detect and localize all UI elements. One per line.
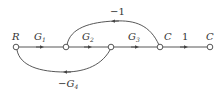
label-G1: G1 (34, 31, 46, 43)
node-n1 (63, 44, 69, 50)
label-G3: G3 (128, 31, 140, 43)
label-minus-G4: −G4 (58, 78, 78, 90)
node-C-output (207, 44, 213, 50)
label-minus-1: −1 (110, 6, 125, 17)
branch-minus-G4 (17, 50, 110, 72)
node-n2 (108, 44, 114, 50)
branch-feedback-minus-1 (67, 21, 159, 45)
label-C: C (164, 31, 172, 42)
node-C (157, 44, 163, 50)
label-R: R (11, 31, 20, 42)
node-R (13, 44, 19, 50)
label-G2: G2 (82, 31, 94, 43)
label-gain-1: 1 (182, 31, 188, 42)
label-C-output: C (206, 31, 214, 42)
signal-flow-graph: R G1 G2 G3 C 1 C −1 −G4 (0, 0, 222, 93)
